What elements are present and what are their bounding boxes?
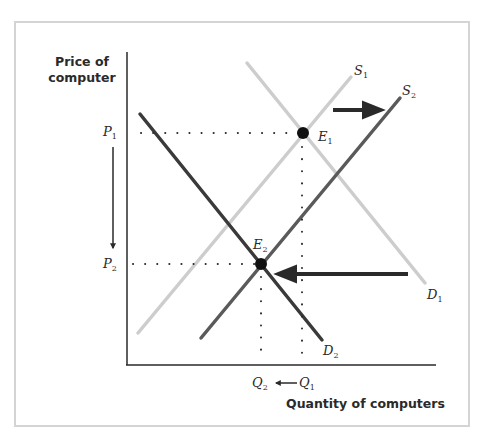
equilibrium-point-e1 [297,127,309,139]
y-axis-title-line2: computer [44,70,120,86]
supply-curve-s1 [138,77,351,333]
price-label-p1: P1 [103,125,117,144]
equilibrium-label-e1: E1 [318,130,333,149]
equilibrium-point-e2 [255,258,267,270]
equilibrium-label-e2: E2 [253,238,268,257]
supply-demand-diagram: Price of computer Quantity of computers … [0,0,488,441]
quantity-label-q1: Q1 [299,376,315,395]
curve-label-s2: S2 [402,84,416,103]
curve-label-d1: D1 [427,288,443,307]
price-label-p2: P2 [103,257,117,276]
y-axis-title-line1: Price of [44,54,120,70]
curve-label-s1: S1 [354,64,368,83]
y-axis-title: Price of computer [44,54,120,86]
x-axis-title: Quantity of computers [286,396,445,411]
curve-label-d2: D2 [323,344,339,363]
quantity-label-q2: Q2 [252,376,268,395]
